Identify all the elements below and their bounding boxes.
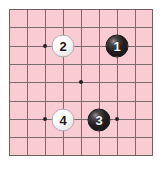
grid-line-horizontal-7 — [9, 119, 153, 120]
stone-number-label: 2 — [59, 40, 66, 53]
grid-line-horizontal-3 — [9, 46, 153, 47]
star-point-center — [79, 80, 83, 84]
stone-number-label: 1 — [113, 40, 120, 53]
grid-line-horizontal-8 — [9, 137, 153, 138]
grid-line-horizontal-9 — [9, 155, 153, 156]
star-point-bottom-left — [43, 117, 47, 121]
grid-line-horizontal-1 — [9, 9, 153, 10]
go-board[interactable]: 1 2 3 4 — [9, 9, 153, 156]
stone-white-4[interactable]: 4 — [52, 109, 75, 132]
star-point-bottom-right — [115, 117, 119, 121]
stone-black-1[interactable]: 1 — [106, 35, 129, 58]
stone-number-label: 4 — [59, 114, 66, 127]
stone-black-3[interactable]: 3 — [88, 109, 111, 132]
stone-number-label: 3 — [95, 114, 102, 127]
go-diagram: 1 2 3 4 — [0, 0, 163, 169]
stone-white-2[interactable]: 2 — [52, 35, 75, 58]
star-point-top-left — [43, 44, 47, 48]
grid-line-horizontal-6 — [9, 101, 153, 102]
grid-line-horizontal-2 — [9, 27, 153, 28]
grid-line-horizontal-4 — [9, 64, 153, 65]
